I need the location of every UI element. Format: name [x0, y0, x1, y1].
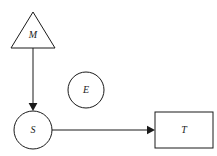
edge-s-to-t — [52, 126, 155, 134]
node-s[interactable]: S — [14, 111, 52, 149]
node-s-label: S — [31, 124, 36, 135]
edge-m-to-s — [29, 48, 38, 111]
diagram-svg: M S E T — [0, 0, 217, 156]
edge-s-to-t-arrowhead — [147, 126, 155, 134]
edge-m-to-s-arrowhead — [29, 103, 38, 111]
node-m-label: M — [28, 29, 38, 40]
node-e[interactable]: E — [68, 72, 104, 108]
node-e-label: E — [82, 84, 89, 95]
node-t[interactable]: T — [155, 112, 213, 148]
diagram-canvas: M S E T — [0, 0, 217, 156]
node-m[interactable]: M — [11, 12, 55, 48]
